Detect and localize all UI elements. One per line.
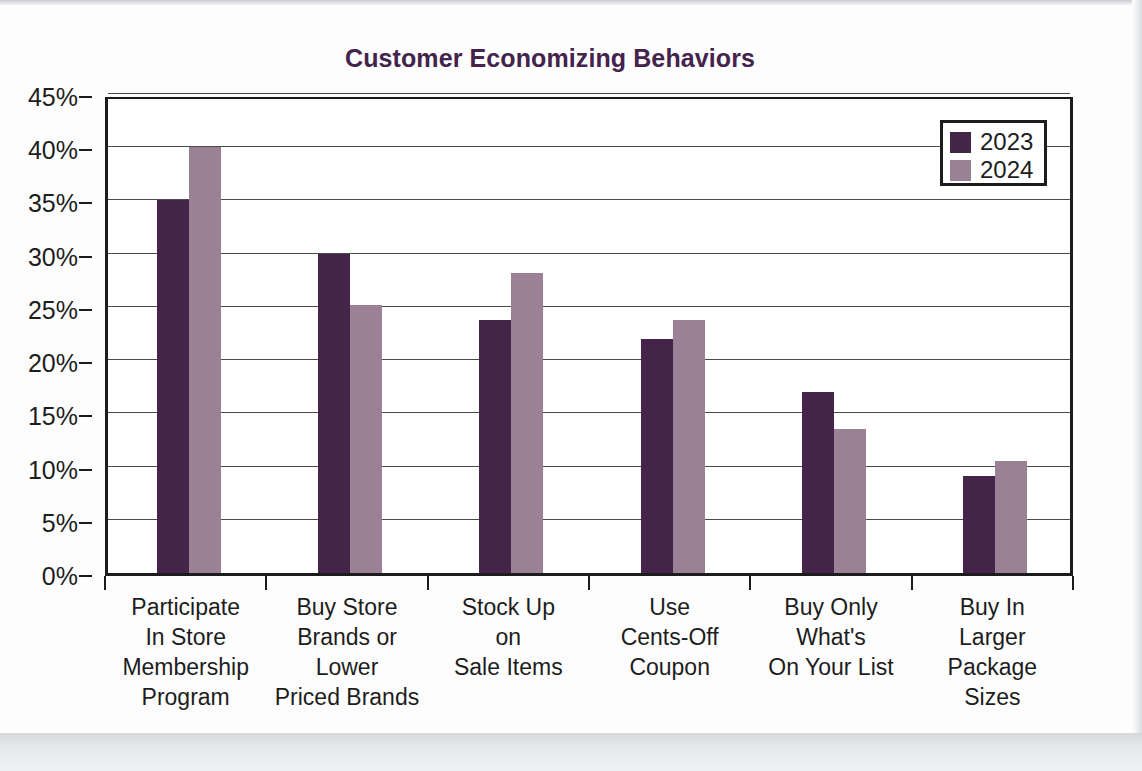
y-tick-mark-0 [79,575,92,577]
page-edge-top [0,0,1142,6]
x-axis-label: ParticipateIn StoreMembershipProgram [93,592,278,712]
x-axis-label: Stock UponSale Items [416,592,601,682]
x-axis-label-line: Membership [93,652,278,682]
chart-legend: 20232024 [940,120,1047,186]
x-axis-label-line: Participate [93,592,278,622]
x-tick-mark [1072,576,1074,590]
y-tick-label-35: 35% [28,189,78,218]
x-tick-mark [265,576,267,590]
bar-2023 [318,254,350,573]
y-axis: 0%5%10%15%20%25%30%35%40%45% [0,97,92,576]
bars-layer [108,99,1070,573]
legend-item-2023[interactable]: 2023 [950,128,1038,156]
x-axis-label: Buy InLargerPackageSizes [900,592,1085,712]
x-axis-label-line: Priced Brands [254,682,439,712]
bar-2024 [350,305,382,573]
x-axis-label-line: Buy In [900,592,1085,622]
y-tick-label-30: 30% [28,242,78,271]
x-axis-label: Buy StoreBrands orLowerPriced Brands [254,592,439,712]
x-axis-labels: ParticipateIn StoreMembershipProgramBuy … [105,592,1073,712]
bar-group [753,99,914,573]
y-tick-mark-30 [79,256,92,258]
y-tick-mark-15 [79,415,92,417]
bar-2024 [673,320,705,573]
y-tick-mark-40 [79,149,92,151]
bar-2023 [802,392,834,573]
bar-2023 [963,476,995,573]
x-axis-label-line: In Store [93,622,278,652]
x-axis-label-line: Package [900,652,1085,682]
x-tick-mark [911,576,913,590]
page-edge-right [1132,0,1142,771]
bar-group [269,99,430,573]
y-tick-mark-35 [79,202,92,204]
y-tick-mark-5 [79,522,92,524]
legend-label: 2023 [980,130,1033,154]
x-axis-label-line: Cents-Off [577,622,762,652]
bar-group [592,99,753,573]
y-tick-mark-45 [79,96,92,98]
plot-area [105,97,1073,576]
y-tick-label-25: 25% [28,295,78,324]
legend-label: 2024 [980,158,1033,182]
x-axis-label-line: Larger [900,622,1085,652]
scanned-page: Customer Economizing Behaviors 0%5%10%15… [0,0,1142,771]
y-tick-label-15: 15% [28,402,78,431]
bar-group [108,99,269,573]
x-tick-mark [104,576,106,590]
x-tick-mark [427,576,429,590]
x-axis-label-line: Sale Items [416,652,601,682]
x-tick-mark [588,576,590,590]
gridline-45 [108,93,1070,94]
x-axis-label-line: Use [577,592,762,622]
bar-2024 [995,461,1027,573]
y-tick-mark-20 [79,362,92,364]
y-tick-mark-25 [79,309,92,311]
x-tick-mark [749,576,751,590]
legend-item-2024[interactable]: 2024 [950,156,1038,184]
y-tick-label-20: 20% [28,349,78,378]
x-axis-label-line: on [416,622,601,652]
y-tick-label-45: 45% [28,83,78,112]
bar-2023 [479,320,511,573]
chart-title: Customer Economizing Behaviors [0,44,1100,73]
x-axis-label-line: Buy Store [254,592,439,622]
x-axis-label-line: Program [93,682,278,712]
x-axis-label-line: On Your List [738,652,923,682]
page-edge-bottom [0,733,1142,771]
x-axis-label: UseCents-OffCoupon [577,592,762,682]
x-axis-label-line: Buy Only [738,592,923,622]
bar-2023 [157,200,189,573]
y-tick-label-40: 40% [28,136,78,165]
legend-swatch-icon [950,132,971,153]
bar-group [431,99,592,573]
y-tick-label-10: 10% [28,455,78,484]
bar-2023 [641,339,673,573]
legend-swatch-icon [950,160,971,181]
bar-2024 [834,429,866,573]
x-axis-label-line: Stock Up [416,592,601,622]
x-axis-label: Buy OnlyWhat'sOn Your List [738,592,923,682]
x-axis-label-line: Sizes [900,682,1085,712]
bar-2024 [511,273,543,573]
y-tick-label-0: 0% [42,562,78,591]
x-axis-label-line: Lower [254,652,439,682]
x-axis-label-line: What's [738,622,923,652]
x-axis-label-line: Brands or [254,622,439,652]
bar-2024 [189,147,221,573]
y-tick-mark-10 [79,469,92,471]
x-axis-label-line: Coupon [577,652,762,682]
y-tick-label-5: 5% [42,508,78,537]
